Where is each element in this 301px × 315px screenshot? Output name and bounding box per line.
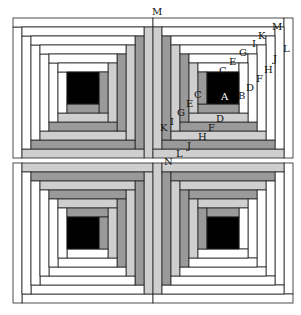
center-square: [207, 217, 239, 249]
strip-right: [171, 276, 275, 285]
strip-right: [13, 163, 22, 303]
piece-label-l: L: [176, 148, 183, 159]
strip-top: [275, 172, 284, 285]
strip-top: [266, 181, 275, 276]
piece-label-k: K: [160, 122, 168, 133]
strip-top: [257, 190, 266, 267]
strip-left: [144, 172, 153, 294]
strip-right: [40, 45, 126, 54]
strip-bottom: [58, 199, 117, 208]
strip-bottom: [49, 190, 126, 199]
block-bottom-left: [13, 163, 153, 303]
piece-label-e: E: [186, 98, 193, 109]
strip-top: [40, 276, 135, 285]
piece-label-m: M: [272, 21, 282, 32]
strip-right: [153, 294, 293, 303]
strip-bottom: [22, 163, 153, 172]
strip-right: [58, 208, 67, 258]
piece-label-k: K: [258, 30, 266, 41]
quilt-blocks: [13, 18, 293, 303]
strip-top: [153, 18, 284, 27]
piece-label-e: E: [229, 56, 236, 67]
strip-bottom: [180, 190, 189, 267]
piece-label-j: J: [186, 140, 191, 151]
strip-right: [13, 18, 153, 27]
strip-left: [207, 208, 239, 217]
strip-bottom: [31, 172, 144, 181]
strip-left: [162, 163, 284, 172]
strip-left: [31, 140, 135, 149]
strip-top: [58, 72, 67, 113]
strip-top: [31, 285, 144, 294]
piece-label-d: D: [246, 82, 254, 93]
strip-right: [284, 18, 293, 158]
strip-top: [22, 36, 31, 149]
strip-top: [49, 63, 58, 122]
strip-top: [22, 294, 153, 303]
piece-label-j: J: [272, 53, 277, 64]
strip-top: [13, 27, 22, 158]
strip-left: [108, 208, 117, 258]
strip-right: [49, 199, 58, 267]
strip-top: [49, 267, 126, 276]
piece-label-d: D: [216, 113, 224, 124]
strip-bottom: [171, 131, 266, 140]
strip-left: [189, 190, 257, 199]
strip-right: [31, 181, 40, 285]
strip-right: [162, 285, 284, 294]
strip-left: [22, 149, 144, 158]
strip-right: [257, 45, 266, 131]
strip-left: [198, 199, 248, 208]
block-bottom-right: [153, 163, 293, 303]
strip-right: [22, 172, 31, 294]
strip-bottom: [144, 27, 153, 158]
center-square: [67, 72, 99, 104]
piece-label-g: G: [177, 107, 185, 118]
strip-left: [126, 190, 135, 276]
strip-bottom: [153, 163, 162, 294]
strip-top: [248, 199, 257, 258]
strip-bottom: [198, 104, 239, 113]
strip-right: [198, 249, 248, 258]
strip-top: [58, 258, 117, 267]
strip-left: [49, 122, 117, 131]
strip-right: [266, 36, 275, 140]
strip-left: [180, 181, 266, 190]
strip-top: [239, 208, 248, 249]
strip-top: [31, 45, 40, 140]
piece-label-a: A: [220, 91, 229, 102]
strip-top: [40, 54, 49, 131]
strip-left: [58, 113, 108, 122]
piece-label-i: I: [170, 116, 174, 127]
strip-left: [40, 131, 126, 140]
strip-bottom: [40, 181, 135, 190]
strip-bottom: [171, 181, 180, 276]
strip-right: [40, 190, 49, 276]
strip-bottom: [99, 72, 108, 113]
strip-bottom: [189, 199, 198, 258]
block-top-right: [153, 18, 293, 158]
piece-label-f: F: [208, 122, 215, 133]
strip-bottom: [162, 172, 171, 285]
piece-label-c: C: [219, 65, 227, 76]
strip-left: [67, 104, 99, 113]
strip-right: [22, 27, 144, 36]
strip-right: [180, 267, 266, 276]
center-square: [67, 217, 99, 249]
block-top-left: [13, 18, 153, 158]
piece-label-l: L: [283, 43, 290, 54]
log-cabin-quilt-diagram: ABCCDDEEFFGGHHIIJJKKLLMMN: [0, 0, 301, 315]
piece-label-b: B: [238, 90, 245, 101]
strip-right: [58, 63, 108, 72]
strip-left: [99, 217, 108, 249]
strip-bottom: [108, 63, 117, 122]
strip-right: [31, 36, 135, 45]
strip-left: [171, 172, 275, 181]
piece-label-h: H: [198, 131, 207, 142]
strip-top: [284, 163, 293, 294]
strip-bottom: [67, 208, 108, 217]
piece-label-g: G: [239, 47, 247, 58]
strip-bottom: [117, 54, 126, 131]
strip-bottom: [126, 45, 135, 140]
strip-left: [117, 199, 126, 267]
